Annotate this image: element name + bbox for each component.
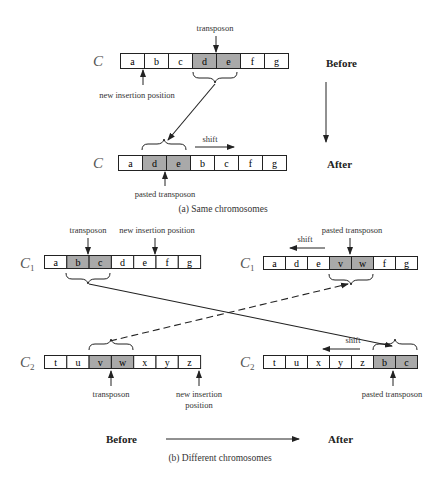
gene-cell: b xyxy=(374,356,396,369)
transposon-diagram: transposon C abcdefg new insertion posit… xyxy=(0,0,447,480)
gene-cell: x xyxy=(308,356,330,369)
gene-label: c xyxy=(178,56,183,67)
gene-label: e xyxy=(143,257,148,268)
chromosome-row-a-before: abcdefg xyxy=(121,54,289,69)
gene-cell: d xyxy=(193,54,217,69)
gene-cell: y xyxy=(156,356,178,369)
gene-label: v xyxy=(98,357,103,368)
gene-label: z xyxy=(360,357,365,368)
chromosome-label: C1 xyxy=(240,255,255,273)
gene-cell: g xyxy=(263,156,287,171)
gene-label: g xyxy=(274,56,279,67)
gene-cell: f xyxy=(241,54,265,69)
gene-cell: b xyxy=(145,54,169,69)
pasted-transposon-label: pasted transposon xyxy=(135,189,196,199)
brace-icon xyxy=(142,139,186,150)
gene-label: c xyxy=(404,357,409,368)
gene-label: a xyxy=(272,258,277,269)
gene-cell: a xyxy=(119,156,143,171)
brace-icon xyxy=(329,274,373,285)
brace-icon xyxy=(193,72,237,83)
chromosome-row-c2-before: tuvwxyz xyxy=(45,356,201,369)
gene-label: c xyxy=(224,158,229,169)
gene-cell: x xyxy=(134,356,156,369)
before-label: Before xyxy=(326,57,357,69)
gene-cell: v xyxy=(330,257,352,270)
brace-icon xyxy=(66,273,110,284)
move-arrow-dashed-icon xyxy=(110,284,348,341)
gene-label: x xyxy=(316,357,321,368)
shift-label: shift xyxy=(297,234,313,244)
gene-label: g xyxy=(272,158,277,169)
gene-cell: d xyxy=(143,156,167,171)
chromosome-label: C xyxy=(93,53,104,69)
gene-label: b xyxy=(200,158,205,169)
gene-cell: c xyxy=(89,256,111,269)
gene-label: y xyxy=(165,357,170,368)
chromosome-label: C2 xyxy=(240,354,255,372)
gene-label: b xyxy=(154,56,159,67)
gene-cell: a xyxy=(264,257,286,270)
gene-cell: u xyxy=(67,356,89,369)
gene-label: y xyxy=(338,357,343,368)
gene-cell: a xyxy=(121,54,145,69)
gene-label: e xyxy=(176,158,181,169)
gene-cell: w xyxy=(111,356,133,369)
shift-label: shift xyxy=(345,335,361,345)
gene-cell: f xyxy=(156,256,178,269)
gene-cell: z xyxy=(178,356,200,369)
gene-cell: y xyxy=(330,356,352,369)
gene-label: b xyxy=(75,257,80,268)
gene-label: c xyxy=(98,257,103,268)
gene-label: e xyxy=(226,56,231,67)
gene-label: x xyxy=(142,357,147,368)
gene-label: w xyxy=(359,258,367,269)
chromosome-row-c1-before: abcdefg xyxy=(45,256,201,269)
gene-cell: v xyxy=(89,356,111,369)
gene-label: a xyxy=(53,257,58,268)
gene-cell: d xyxy=(111,256,133,269)
gene-label: g xyxy=(404,258,409,269)
insertion-position-label-line1: new insertion xyxy=(176,389,223,399)
gene-cell: d xyxy=(286,257,308,270)
shift-label: shift xyxy=(202,134,218,144)
gene-label: d xyxy=(294,258,299,269)
part-b: transposon new insertion position C1 abc… xyxy=(20,225,423,464)
gene-label: e xyxy=(316,258,321,269)
insertion-position-label: new insertion position xyxy=(99,90,175,100)
gene-cell: g xyxy=(178,256,200,269)
after-label: After xyxy=(328,433,353,445)
before-label: Before xyxy=(106,433,137,445)
gene-label: u xyxy=(294,357,299,368)
chromosome-label: C1 xyxy=(20,255,35,273)
gene-label: t xyxy=(273,357,276,368)
chromosome-row-c2-after: tuxyzbc xyxy=(264,356,418,369)
gene-cell: c xyxy=(169,54,193,69)
chromosome-row-c1-after: adevwfg xyxy=(264,257,418,270)
gene-cell: a xyxy=(45,256,67,269)
gene-label: d xyxy=(202,56,207,67)
chromosome-row-a-after: adebcfg xyxy=(119,156,287,171)
gene-label: v xyxy=(338,258,343,269)
gene-cell: e xyxy=(308,257,330,270)
gene-cell: g xyxy=(396,257,418,270)
gene-cell: b xyxy=(191,156,215,171)
chromosome-label: C xyxy=(93,155,104,171)
gene-cell: t xyxy=(264,356,286,369)
transposon-label: transposon xyxy=(197,23,235,33)
gene-cell: z xyxy=(352,356,374,369)
gene-label: b xyxy=(382,357,387,368)
brace-icon xyxy=(89,339,133,350)
part-a: transposon C abcdefg new insertion posit… xyxy=(93,23,357,215)
pasted-transposon-label: pasted transposon xyxy=(362,389,423,399)
after-label: After xyxy=(327,158,352,170)
gene-label: a xyxy=(128,158,133,169)
gene-label: d xyxy=(152,158,157,169)
chromosome-label: C2 xyxy=(20,354,35,372)
gene-cell: e xyxy=(217,54,241,69)
pasted-transposon-label: pasted transposon xyxy=(322,225,383,235)
gene-label: u xyxy=(75,357,80,368)
insertion-position-label: new insertion position xyxy=(119,225,195,235)
gene-label: d xyxy=(120,257,125,268)
move-arrow-icon xyxy=(168,84,215,140)
